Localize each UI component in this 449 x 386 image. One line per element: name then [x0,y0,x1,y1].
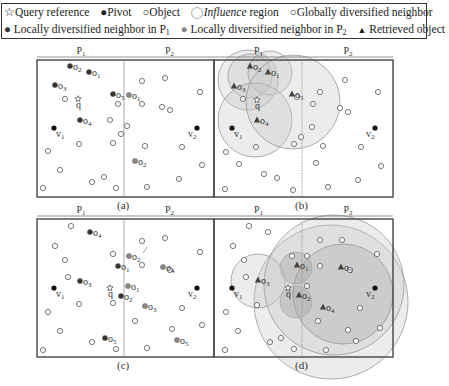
object-circle-icon [142,143,147,148]
pivot-dot-icon [194,125,199,130]
object-circle-icon [167,107,172,112]
local-p2-dot-icon [174,337,179,342]
local-p2-dot-icon [126,92,131,97]
object-circle-icon [289,253,294,258]
object-circle-icon [355,177,360,182]
local-p1-dot-icon [77,117,82,122]
object-circle-icon [89,339,94,344]
object-circle-icon [110,300,115,305]
object-circle-icon [243,274,248,279]
object-circle-icon [253,144,258,149]
object-circle-icon [304,283,309,288]
point-label: o4 [83,115,92,128]
local-p2-dot-icon [160,264,165,269]
pivot-dot-icon [372,285,377,290]
object-circle-icon [89,179,94,184]
object-circle-icon [223,149,228,154]
panel-caption: (c) [117,359,130,372]
point-label: o1 [92,67,101,80]
object-circle-icon [76,141,81,146]
panel-caption: (a) [117,199,130,212]
panel-c: P1P2(c)qv1v2o4o1o3o2o5o2o1o4o3o5 [37,204,214,372]
object-circle-icon [345,109,350,114]
object-circle-icon [246,223,251,228]
point-label: o4 [93,227,102,240]
partition-label-p2: P2 [165,45,175,58]
object-circle-icon [179,144,184,149]
object-circle-icon [345,327,350,332]
object-circle-icon [278,335,283,340]
diagram-canvas: P1P2(a)qv1v2o2o1o3o4o5o1o2P1P2(b)qv1v2o2… [0,0,449,386]
local-p2-dot-icon [142,303,147,308]
object-circle-icon [179,305,184,310]
local-p1-dot-icon [67,63,72,68]
object-circle-icon [241,257,246,262]
pivot-dot-icon [194,285,199,290]
query-label: q [286,288,291,299]
object-circle-icon [236,161,241,166]
object-circle-icon [132,318,137,323]
point-label: o2 [132,251,141,264]
panel-a: P1P2(a)qv1v2o2o1o3o4o5o1o2 [37,45,214,212]
object-circle-icon [377,325,382,330]
object-circle-icon [113,185,118,190]
object-circle-icon [254,302,259,307]
object-circle-icon [139,78,144,83]
panel-d: P1P2(d)qv1v2o1o3o2o4o5 [214,204,408,379]
object-circle-icon [144,345,149,350]
point-label: o5 [180,335,189,348]
object-circle-icon [199,162,204,167]
object-circle-icon [317,89,322,94]
object-circle-icon [230,243,235,248]
partition-label-p1: P1 [77,45,87,58]
object-circle-icon [40,347,45,352]
object-circle-icon [68,223,73,228]
object-circle-icon [320,143,325,148]
object-circle-icon [223,309,228,314]
partition-label-p1: P1 [254,204,264,217]
object-circle-icon [40,185,45,190]
object-circle-icon [358,144,363,149]
partition-label-p2: P2 [165,204,175,217]
object-circle-icon [235,328,240,333]
local-p2-dot-icon [132,158,137,163]
local-p1-dot-icon [110,91,115,96]
object-circle-icon [274,175,279,180]
point-label: o3 [58,80,67,93]
object-circle-icon [76,301,81,306]
object-circle-icon [197,249,202,254]
object-circle-icon [197,89,202,94]
object-circle-icon [176,176,181,181]
point-label: o3 [83,276,92,289]
object-circle-icon [315,318,320,323]
object-circle-icon [107,117,112,122]
object-circle-icon [57,167,62,172]
object-circle-icon [124,123,129,128]
query-label: q [76,99,81,110]
panel-caption: (b) [295,199,308,212]
panel-b: P1P2(b)qv1v2o2o1o3o4o5 [214,45,393,212]
point-label: o2 [124,291,133,304]
object-circle-icon [337,105,342,110]
object-circle-icon [115,101,120,106]
point-label: o1 [132,90,141,103]
point-label: o3 [148,301,157,314]
object-circle-icon [325,184,330,189]
object-circle-icon [62,257,67,262]
object-circle-icon [110,140,115,145]
object-circle-icon [342,77,347,82]
local-p1-dot-icon [86,69,91,74]
object-circle-icon [113,346,118,351]
local-p2-dot-icon [125,283,130,288]
object-circle-icon [118,131,123,136]
object-circle-icon [52,243,57,248]
local-p1-dot-icon [87,229,92,234]
object-circle-icon [291,346,296,351]
object-circle-icon [45,309,50,314]
point-label: o2 [138,156,147,169]
query-label: q [108,288,113,299]
object-circle-icon [199,322,204,327]
object-circle-icon [139,238,144,243]
object-circle-icon [162,235,167,240]
object-circle-icon [317,263,322,268]
